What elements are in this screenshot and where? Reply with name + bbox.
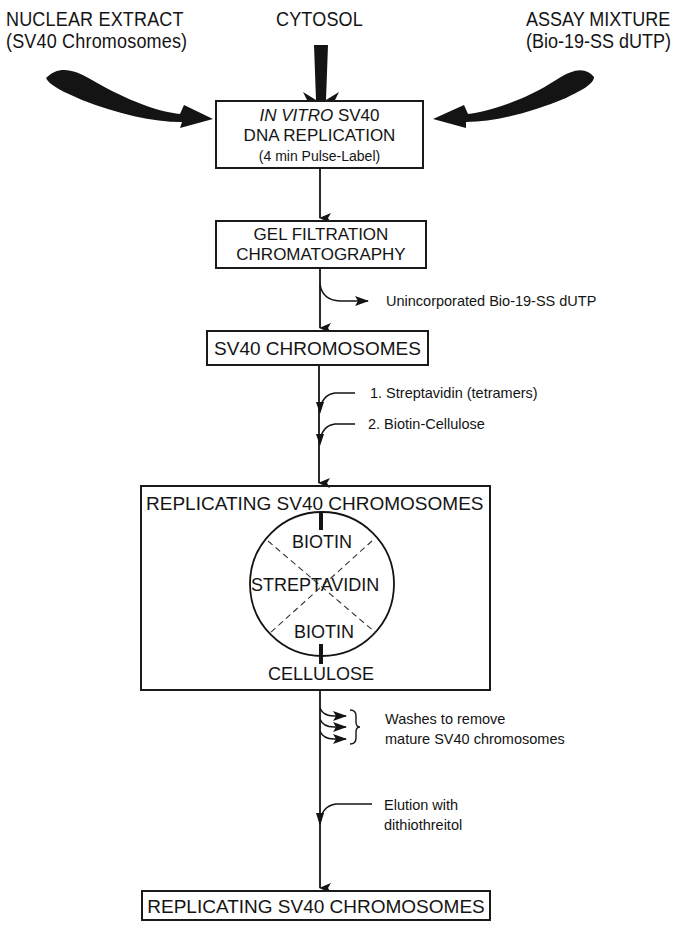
input-cytosol: CYTOSOL: [276, 8, 363, 31]
complex-title: REPLICATING SV40 CHROMOSOMES: [146, 493, 484, 515]
step-gel-filtration: GEL FILTRATION CHROMATOGRAPHY: [215, 220, 427, 269]
input-nuclear-extract: NUCLEAR EXTRACT (SV40 Chromosomes): [6, 8, 187, 52]
label-biotin-cellulose: 2. Biotin-Cellulose: [368, 416, 485, 432]
circle-streptavidin: STREPTAVIDIN: [251, 575, 379, 596]
nuclear-extract-arrow: [46, 70, 213, 128]
assay-mixture-arrow: [433, 70, 594, 128]
input-assay-mixture: ASSAY MIXTURE (Bio-19-SS dUTP): [526, 8, 670, 52]
label-elution: Elution with dithiothreitol: [384, 795, 462, 835]
complex-cellulose: CELLULOSE: [268, 664, 374, 685]
step-sv40-chromosomes: SV40 CHROMOSOMES: [206, 330, 429, 366]
circle-biotin-bottom: BIOTIN: [294, 622, 354, 643]
step-final-replicating: REPLICATING SV40 CHROMOSOMES: [141, 890, 491, 921]
washes-brace: [350, 710, 360, 744]
label-streptavidin: 1. Streptavidin (tetramers): [370, 385, 538, 401]
step-in-vitro-replication: IN VITRO SV40 DNA REPLICATION (4 min Pul…: [215, 100, 424, 169]
label-unincorporated: Unincorporated Bio-19-SS dUTP: [386, 293, 596, 309]
label-washes: Washes to remove mature SV40 chromosomes: [385, 709, 565, 749]
circle-biotin-top: BIOTIN: [292, 532, 352, 553]
